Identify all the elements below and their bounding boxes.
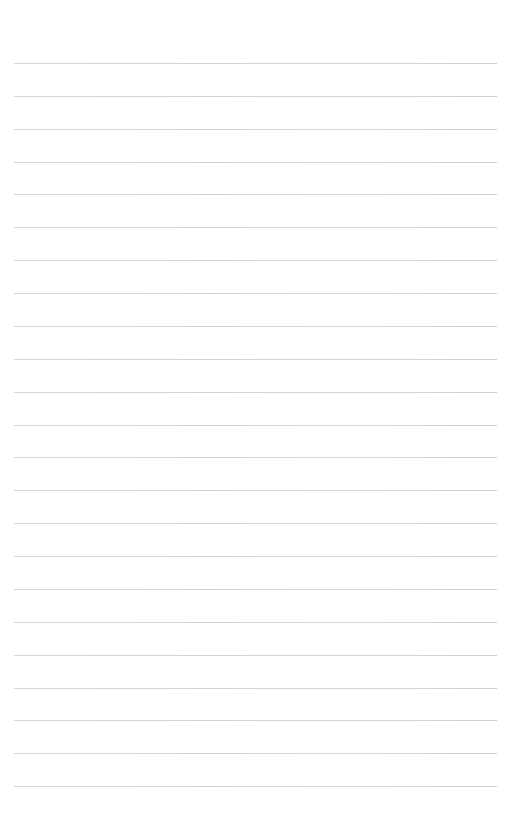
ruled-line — [14, 260, 497, 261]
ruled-line — [14, 392, 497, 393]
ruled-line — [14, 96, 497, 97]
ruled-line — [14, 688, 497, 689]
ruled-line — [14, 293, 497, 294]
lined-paper-sheet — [0, 0, 526, 839]
ruled-line — [14, 227, 497, 228]
ruled-line — [14, 63, 497, 64]
ruled-line — [14, 622, 497, 623]
ruled-line — [14, 655, 497, 656]
ruled-line — [14, 786, 497, 787]
ruled-line — [14, 425, 497, 426]
ruled-line — [14, 194, 497, 195]
ruled-line — [14, 753, 497, 754]
ruled-line — [14, 359, 497, 360]
ruled-line — [14, 457, 497, 458]
ruled-line — [14, 162, 497, 163]
ruled-line — [14, 129, 497, 130]
ruled-line — [14, 523, 497, 524]
ruled-line — [14, 556, 497, 557]
ruled-line — [14, 720, 497, 721]
ruled-line — [14, 326, 497, 327]
ruled-line — [14, 589, 497, 590]
ruled-line — [14, 490, 497, 491]
